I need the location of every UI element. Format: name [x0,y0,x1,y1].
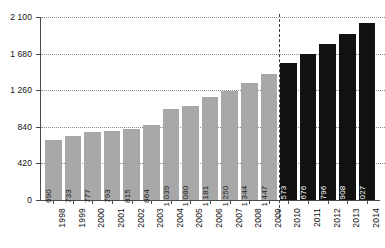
x-tick-mark [210,200,211,204]
x-tick-label: 1999 [77,208,87,228]
x-tick-mark [288,200,289,204]
x-tick-mark [53,200,54,204]
bar: 793 [104,131,121,200]
bar-value-label: 1 250 [222,185,230,206]
x-tick-label: 2011 [312,208,322,227]
x-tick-mark [92,200,93,204]
x-tick-label: 2005 [194,208,204,228]
bar-value-label: 793 [104,189,112,203]
bar-value-label: 733 [65,189,73,203]
bar-value-label: 815 [124,189,132,203]
bar: 1 796 [319,44,336,201]
x-tick-label: 1998 [57,208,67,228]
bar: 1 447 [261,74,278,200]
bar: 1 080 [182,106,199,200]
gridline [41,17,385,18]
bar-value-label: 1 344 [241,185,249,206]
bar-value-label: 777 [84,189,92,203]
y-axis: 04208401 2601 6802 100 [0,0,36,248]
bar-value-label: 1 080 [182,185,190,206]
bar-value-label: 1 796 [320,185,328,206]
x-tick-mark [190,200,191,204]
y-tick-label: 0 [27,195,32,205]
x-tick-mark [269,200,270,204]
x-tick-label: 2006 [214,208,224,228]
x-tick-mark [171,200,172,204]
y-tick-mark [36,17,41,18]
bar: 690 [45,140,62,200]
bar: 2 027 [359,23,376,200]
x-tick-mark [367,200,368,204]
bar-value-label: 1 447 [261,185,269,206]
y-tick-label: 420 [18,158,32,168]
bar: 1 250 [221,91,238,200]
x-tick-label: 2002 [136,208,146,228]
bar-chart: 04208401 2601 6802 100 69019987331999777… [0,0,385,248]
x-tick-label: 2007 [234,208,244,228]
x-tick-label: 2000 [96,208,106,228]
y-tick-mark [36,90,41,91]
bar-value-label: 2 027 [359,185,367,206]
x-tick-label: 2014 [371,208,381,228]
x-tick-mark [347,200,348,204]
bar-value-label: 1 039 [163,185,171,206]
y-tick-mark [36,127,41,128]
bar-value-label: 1 908 [339,185,347,206]
x-tick-mark [249,200,250,204]
bar: 1 676 [300,54,317,200]
x-tick-mark [230,200,231,204]
y-tick-label: 840 [18,122,32,132]
forecast-divider [279,14,280,218]
x-tick-mark [308,200,309,204]
y-tick-mark [36,163,41,164]
x-tick-label: 2010 [292,208,302,228]
y-tick-label: 1 260 [10,85,32,95]
bar-value-label: 1 573 [280,185,288,206]
x-tick-label: 2003 [155,208,165,228]
x-tick-label: 2008 [253,208,263,228]
plot-area: 6901998733199977720007932001815200286420… [41,0,385,248]
bar: 815 [123,129,140,200]
x-tick-label: 2012 [332,208,342,228]
x-tick-mark [73,200,74,204]
x-tick-label: 2013 [351,208,361,228]
bar: 864 [143,125,160,200]
bar: 1 181 [202,97,219,200]
bar-value-label: 1 676 [300,185,308,206]
x-tick-mark [112,200,113,204]
y-tick-label: 1 680 [10,49,32,59]
bar: 1 344 [241,83,258,200]
bar: 1 039 [163,109,180,200]
x-tick-mark [328,200,329,204]
y-tick-mark [36,54,41,55]
bar: 1 573 [280,63,297,200]
bar: 777 [84,132,101,200]
x-tick-mark [132,200,133,204]
bar-value-label: 864 [143,189,151,203]
x-tick-label: 2004 [175,208,185,228]
bar: 733 [65,136,82,200]
x-tick-mark [151,200,152,204]
y-tick-label: 2 100 [10,12,32,22]
bar: 1 908 [339,34,356,200]
x-tick-label: 2001 [116,208,126,228]
y-tick-mark [36,200,41,201]
bar-value-label: 1 181 [202,185,210,206]
bar-value-label: 690 [45,189,53,203]
